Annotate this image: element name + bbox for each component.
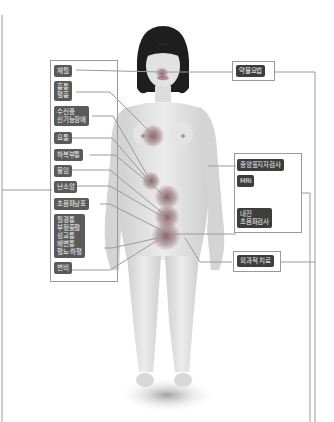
symptom-label: 난소암 xyxy=(54,181,77,193)
symptom-label: 요통 xyxy=(54,132,72,144)
surgery-label: 외과적 치료 xyxy=(237,255,274,267)
symptom-label: 월경통 부정출혈 성교통 배변통 혈뇨·하혈 xyxy=(54,214,85,258)
drug-therapy-label: 약물요법 xyxy=(236,65,265,77)
test-label: 종양표지자검사 xyxy=(237,159,284,171)
test-label: 내진 초음파검사 xyxy=(237,208,272,228)
symptom-label: 불임 xyxy=(54,165,72,177)
symptom-label: 변비 xyxy=(54,262,72,274)
symptom-label: 재월 xyxy=(54,65,72,77)
symptom-label: 수신증 신기능장애 xyxy=(54,106,89,126)
symptom-label: 초음파낭포 xyxy=(54,198,89,210)
symptom-label: 흉통 혈흉 xyxy=(54,81,72,101)
symptom-label: 하복부통 xyxy=(54,149,83,161)
test-label: MRI xyxy=(237,175,254,187)
